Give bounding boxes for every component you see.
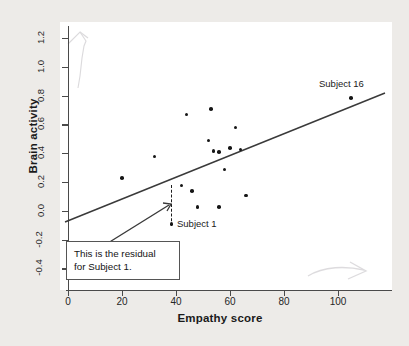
y-tick-1.0 <box>62 67 68 68</box>
x-tick-label-100: 100 <box>321 296 355 307</box>
data-point <box>228 146 232 150</box>
subject-16-label: Subject 16 <box>319 78 364 89</box>
x-tick-label-80: 80 <box>267 296 301 307</box>
data-point <box>217 150 221 154</box>
y-tick-0.2 <box>62 182 68 183</box>
x-tick-label-40: 40 <box>159 296 193 307</box>
data-point <box>190 189 194 193</box>
y-axis-title: Brain activity <box>27 81 39 191</box>
data-point <box>120 176 124 180</box>
x-tick-label-20: 20 <box>105 296 139 307</box>
subject-1-label: Subject 1 <box>177 218 217 229</box>
y-tick-0.6 <box>62 124 68 125</box>
y-tick-0.4 <box>62 153 68 154</box>
x-tick-label-60: 60 <box>213 296 247 307</box>
y-tick-label--0.4: -0.4 <box>33 248 44 288</box>
x-tick-label-0: 0 <box>51 296 85 307</box>
callout-line-2: for Subject 1. <box>74 260 172 273</box>
x-axis-line <box>66 290 392 291</box>
data-point <box>217 205 221 209</box>
data-point <box>196 205 200 209</box>
data-point-subject-16 <box>349 96 353 100</box>
callout-line-1: This is the residual <box>74 247 172 260</box>
data-point <box>244 194 248 198</box>
data-point <box>209 107 213 111</box>
figure-page: 1.2 1.0 0.8 0.6 0.4 0.2 0.0 -0.2 -0.4 Br… <box>0 0 409 346</box>
residual-callout-box: This is the residual for Subject 1. <box>66 241 180 280</box>
x-axis-title: Empathy score <box>100 312 340 324</box>
y-tick-0.0 <box>62 211 68 212</box>
data-point <box>180 184 184 188</box>
y-tick-1.2 <box>62 38 68 39</box>
residual-dashed-line <box>171 185 172 226</box>
y-tick-0.8 <box>62 96 68 97</box>
